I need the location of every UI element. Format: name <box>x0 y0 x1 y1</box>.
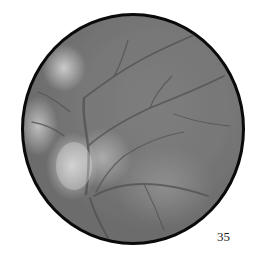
image-caption-number: 35 <box>217 229 230 245</box>
retinal-vessels <box>24 16 242 242</box>
fundus-image <box>21 13 245 245</box>
